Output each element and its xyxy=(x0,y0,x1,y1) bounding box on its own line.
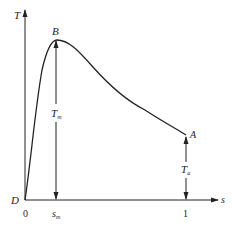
y-axis-label: T xyxy=(14,9,21,21)
one-tick-label: 1 xyxy=(183,208,188,219)
max-torque-label: Tm xyxy=(51,107,62,120)
sm-tick-label: sm xyxy=(52,208,61,220)
start-torque-sub: a xyxy=(187,170,190,176)
origin-tick-label: 0 xyxy=(23,208,28,219)
peak-point-label: B xyxy=(52,25,59,37)
start-torque-label: Ta xyxy=(181,163,190,176)
start-point-label: A xyxy=(189,129,197,140)
torque-slip-diagram: T s D 0 B A Tm Ta sm 1 xyxy=(0,0,238,229)
x-axis-label: s xyxy=(221,194,225,205)
origin-point-label: D xyxy=(10,194,19,206)
max-torque-sub: m xyxy=(57,114,62,120)
torque-curve xyxy=(25,40,186,200)
sm-tick-sub: m xyxy=(56,214,61,220)
